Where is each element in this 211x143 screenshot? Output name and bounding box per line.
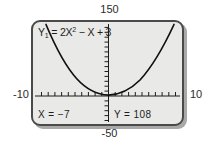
equation-tail: − X + 3 <box>76 26 111 38</box>
equation-label: Y1 = 2X2 − X + 3 <box>38 26 111 38</box>
trace-x-readout: X = −7 <box>38 109 70 120</box>
equation-y: Y <box>38 26 45 38</box>
calculator-screenshot: 150 -50 -10 10 <box>0 0 211 143</box>
y-axis-ticks <box>105 27 109 120</box>
equation-subscript: 1 <box>45 32 49 39</box>
x-min-label: -10 <box>5 88 29 100</box>
calculator-screen[interactable]: Y1 = 2X2 − X + 3 X = −7 Y = 108 <box>31 20 184 126</box>
equation-body: = 2X <box>49 26 73 38</box>
x-max-label: 10 <box>190 88 202 100</box>
trace-y-readout: Y = 108 <box>114 109 151 120</box>
equation-exponent: 2 <box>72 26 76 33</box>
y-max-label: 150 <box>0 3 211 15</box>
